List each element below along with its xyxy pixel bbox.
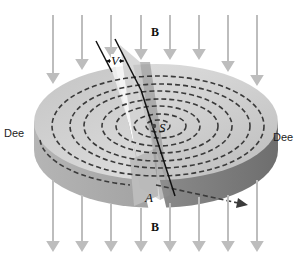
- field-arrow-icon: [136, 208, 146, 250]
- field-arrow-icon: [165, 15, 175, 58]
- field-arrow-icon: [252, 15, 262, 84]
- field-arrow-icon: [106, 204, 116, 250]
- field-arrow-icon: [165, 203, 175, 250]
- source-label: S: [159, 120, 166, 135]
- cyclotron-diagram: V S B B Dee Dee A: [0, 0, 304, 258]
- field-arrow-icon: [106, 15, 116, 56]
- dee-right-label: Dee: [273, 131, 293, 143]
- field-arrow-icon: [77, 15, 87, 68]
- field-label-top: B: [151, 25, 159, 39]
- field-arrow-icon: [223, 15, 233, 70]
- dee-left-label: Dee: [4, 127, 24, 139]
- field-arrow-icon: [252, 180, 262, 250]
- field-arrow-icon: [194, 15, 204, 58]
- field-arrow-icon: [136, 15, 146, 58]
- field-label-bottom: B: [151, 220, 159, 234]
- exit-point-label: A: [144, 190, 153, 205]
- field-arrow-icon: [194, 197, 204, 250]
- field-arrow-icon: [48, 15, 58, 82]
- field-arrow-icon: [48, 180, 58, 250]
- field-arrow-icon: [77, 195, 87, 250]
- field-arrow-icon: [223, 195, 233, 250]
